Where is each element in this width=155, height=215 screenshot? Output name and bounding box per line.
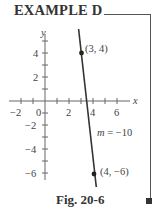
point-marker bbox=[92, 172, 97, 177]
x-tick-label: 4 bbox=[90, 107, 96, 118]
y-tick-label: −2 bbox=[25, 120, 36, 131]
slope-value: = −10 bbox=[105, 127, 133, 138]
slope-annotation: m = −10 bbox=[97, 127, 132, 138]
origin-label: 0 bbox=[36, 107, 41, 118]
x-tick-label: 2 bbox=[66, 107, 71, 118]
x-tick-label: −2 bbox=[10, 107, 21, 118]
y-tick-label: −4 bbox=[25, 144, 37, 155]
point-label: (4, −6) bbox=[100, 166, 129, 178]
coordinate-plot: y x −2 0 2 4 6 4 2 −2 −4 −6 (3, 4) (4, −… bbox=[0, 0, 155, 215]
point-marker bbox=[79, 51, 84, 56]
y-axis-label: y bbox=[40, 27, 46, 38]
y-tick-label: −6 bbox=[25, 168, 36, 179]
y-tick-label: 4 bbox=[33, 48, 39, 59]
y-tick-label: 2 bbox=[33, 72, 38, 83]
x-tick-label: 6 bbox=[114, 107, 119, 118]
x-axis-label: x bbox=[132, 95, 138, 106]
point-label: (3, 4) bbox=[85, 43, 108, 55]
figure-caption: Fig. 20-6 bbox=[56, 192, 104, 208]
